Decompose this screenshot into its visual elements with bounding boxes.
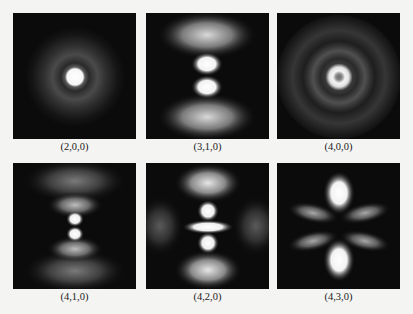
orbital-4-3-0-image — [277, 163, 400, 289]
orbital-4-2-0-image — [146, 163, 269, 289]
orbital-label-4-0-0: (4,0,0) — [277, 141, 400, 153]
orbital-label-4-1-0: (4,1,0) — [13, 291, 136, 303]
orbital-panel-4-0-0 — [277, 13, 400, 139]
orbital-panel-2-0-0 — [13, 13, 136, 139]
orbital-panel-4-3-0 — [277, 163, 400, 289]
orbital-4-1-0-image — [13, 163, 136, 289]
orbital-4-0-0-image — [277, 13, 400, 139]
orbital-label-2-0-0: (2,0,0) — [13, 141, 136, 153]
orbital-panel-4-2-0 — [146, 163, 269, 289]
orbital-panel-3-1-0 — [146, 13, 269, 139]
orbital-label-4-2-0: (4,2,0) — [146, 291, 269, 303]
orbital-label-3-1-0: (3,1,0) — [146, 141, 269, 153]
orbital-panel-4-1-0 — [13, 163, 136, 289]
orbital-2-0-0-image — [13, 13, 136, 139]
orbital-label-4-3-0: (4,3,0) — [277, 291, 400, 303]
orbital-3-1-0-image — [146, 13, 269, 139]
